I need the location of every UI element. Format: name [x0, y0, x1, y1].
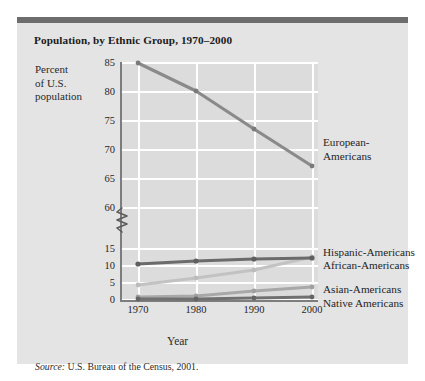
- chart-figure: Population, by Ethnic Group, 1970–2000 P…: [17, 17, 408, 364]
- x-tick-label: 1980: [175, 304, 217, 315]
- series-label-african-americans: African-Americans: [323, 258, 409, 272]
- series-point: [194, 297, 199, 302]
- y-axis-break-icon: [113, 207, 131, 233]
- y-tick-label: 85: [89, 57, 115, 68]
- series-point: [136, 283, 141, 288]
- series-point: [135, 261, 140, 266]
- series-label-native-americans: Native Americans: [323, 296, 403, 310]
- series-label-european-americans-line-1: European-: [323, 135, 371, 149]
- series-point: [252, 289, 257, 294]
- series-point: [252, 296, 257, 301]
- series-point: [194, 276, 199, 281]
- series-point: [309, 255, 314, 260]
- y-tick-label: 80: [89, 86, 115, 97]
- series-point: [310, 285, 315, 290]
- series-label-european-americans-line-2: Americans: [323, 149, 371, 163]
- series-point: [136, 297, 141, 302]
- series-label-hispanic-americans: Hispanic-Americans: [323, 245, 415, 259]
- series-label-asian-americans: Asian-Americans: [323, 282, 401, 296]
- x-axis-title: Year: [167, 335, 188, 347]
- series-point: [194, 89, 199, 94]
- y-tick-label: 65: [89, 173, 115, 184]
- series-point: [251, 256, 256, 261]
- source-note-text: U.S. Bureau of the Census, 2001.: [65, 361, 198, 372]
- source-note: Source: U.S. Bureau of the Census, 2001.: [35, 361, 198, 372]
- x-tick-label: 1990: [233, 304, 275, 315]
- y-tick-label: 70: [89, 144, 115, 155]
- series-point: [193, 258, 198, 263]
- plot-wrapper: 85 80 75 70 65 60 15 10 5 0 1970 1980 19…: [17, 17, 408, 364]
- y-tick-label: 10: [89, 260, 115, 271]
- series-point: [136, 61, 141, 66]
- y-tick-label: 75: [89, 115, 115, 126]
- series-line-european-americans: [138, 63, 312, 166]
- series-point: [252, 268, 257, 273]
- y-tick-label: 60: [89, 202, 115, 213]
- source-note-lead: Source:: [35, 361, 65, 372]
- series-point: [252, 127, 257, 132]
- y-tick-label: 15: [89, 243, 115, 254]
- y-tick-label: 5: [89, 277, 115, 288]
- series-line-asian-americans: [138, 287, 312, 297]
- x-tick-label: 1970: [117, 304, 159, 315]
- series-point: [310, 164, 315, 169]
- series-point: [310, 295, 315, 300]
- series-label-european-americans: European- Americans: [323, 135, 371, 163]
- y-tick-label: 0: [89, 294, 115, 305]
